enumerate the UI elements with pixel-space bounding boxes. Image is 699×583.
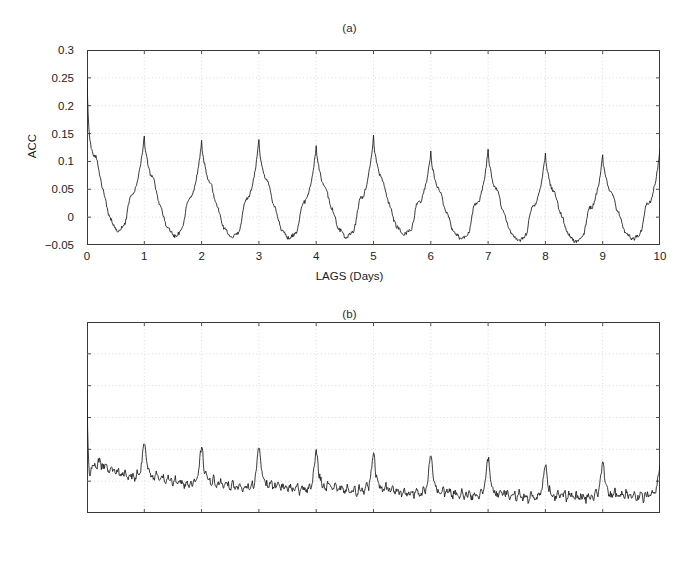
y-tick-label: 0.3 <box>58 44 74 56</box>
y-tick-label: 0 <box>68 211 74 223</box>
plot-area-a <box>87 50 660 245</box>
x-tick-label: 10 <box>654 250 667 262</box>
y-tick-label: 0.05 <box>52 183 74 195</box>
y-tick-label: 0.1 <box>58 155 74 167</box>
y-tick-label: 0.15 <box>52 128 74 140</box>
x-tick-label: 0 <box>84 250 90 262</box>
x-tick-label: 1 <box>141 250 147 262</box>
x-axis-label-a: LAGS (Days) <box>0 270 699 282</box>
panel-b-title: (b) <box>0 308 699 320</box>
x-tick-label: 4 <box>313 250 319 262</box>
x-tick-label: 7 <box>485 250 491 262</box>
data-line <box>87 77 660 243</box>
x-tick-label: 8 <box>542 250 548 262</box>
x-axis-ticks-a: 012345678910 <box>0 250 699 268</box>
x-tick-label: 6 <box>428 250 434 262</box>
panel-a-title: (a) <box>0 22 699 34</box>
y-tick-label: 0.25 <box>52 72 74 84</box>
x-tick-label: 3 <box>256 250 262 262</box>
panel-b: (b) 00.050.10.150.20.250.3 012345678910 … <box>0 300 699 583</box>
y-axis-label-a: ACC <box>26 116 38 176</box>
chart-canvas-b <box>87 322 660 513</box>
x-tick-label: 2 <box>198 250 204 262</box>
figure-autocorrelation: (a) −0.0500.050.10.150.20.250.3 01234567… <box>0 0 699 583</box>
y-axis-ticks-a: −0.0500.050.10.150.20.250.3 <box>0 50 80 245</box>
chart-canvas-a <box>87 50 660 245</box>
x-tick-label: 5 <box>370 250 376 262</box>
x-tick-label: 9 <box>599 250 605 262</box>
plot-area-b <box>87 322 660 513</box>
data-line <box>87 390 660 504</box>
panel-a: (a) −0.0500.050.10.150.20.250.3 01234567… <box>0 0 699 300</box>
y-tick-label: 0.2 <box>58 100 74 112</box>
